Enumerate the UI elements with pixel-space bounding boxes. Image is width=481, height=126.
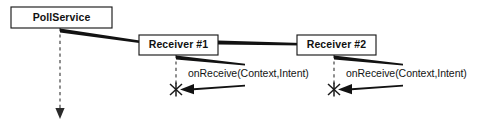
diagram-canvas: PollService Receiver #1 Receiver #2 onRe… (0, 0, 481, 126)
selfcall-out-wedge-receiver1 (176, 56, 245, 66)
uml-sequence-diagram: PollService Receiver #1 Receiver #2 onRe… (0, 0, 481, 126)
message-label-receiver1-onreceive: onReceive(Context,Intent) (188, 67, 309, 79)
selfcall-out-wedge-receiver2 (334, 56, 403, 66)
participant-receiver2[interactable]: Receiver #2 (297, 35, 376, 55)
selfcall-return-arrowhead-receiver2 (338, 84, 352, 94)
message-wedge-body (218, 41, 302, 46)
message-label-receiver2-onreceive: onReceive(Context,Intent) (346, 67, 467, 79)
selfcall-return-wedge-receiver2 (348, 85, 403, 91)
participant-pollservice[interactable]: PollService (11, 7, 112, 28)
participant-label-receiver1: Receiver #1 (149, 38, 209, 50)
termination-x-receiver1 (170, 83, 182, 97)
message-labels-layer: onReceive(Context,Intent) onReceive(Cont… (188, 67, 467, 79)
selfcall-return-arrowhead-receiver1 (180, 84, 194, 94)
selfcall-return-wedge-receiver1 (190, 85, 245, 91)
message-wedge-body (60, 29, 143, 44)
participant-label-pollservice: PollService (33, 11, 91, 23)
participant-label-receiver2: Receiver #2 (307, 38, 367, 50)
participant-receiver1[interactable]: Receiver #1 (139, 35, 218, 55)
termination-x-receiver2 (328, 83, 340, 97)
lifeline-end-arrow-pollservice (55, 108, 64, 119)
